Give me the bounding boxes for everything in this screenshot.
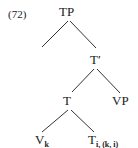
edge-tp-left — [42, 21, 68, 47]
edge-tp-tbar — [70, 21, 96, 48]
node-t-trace-label: T — [88, 132, 96, 147]
edge-t-v — [42, 110, 68, 132]
edge-tbar-vp — [97, 69, 120, 93]
example-number: (72) — [8, 9, 26, 20]
edge-t-ttrace — [71, 110, 94, 132]
node-t-bar: T′ — [90, 53, 101, 66]
edge-tbar-t — [72, 69, 94, 92]
node-t-trace: Ti, (k, i) — [88, 133, 118, 146]
node-t: T — [63, 94, 71, 107]
node-v-k: Vk — [35, 133, 49, 146]
node-t-trace-subscript: i, (k, i) — [96, 140, 118, 148]
node-tp: TP — [59, 5, 74, 18]
tree-edges — [0, 0, 138, 148]
node-vp: VP — [112, 94, 129, 107]
node-v-subscript: k — [44, 140, 48, 148]
node-v-label: V — [35, 132, 44, 147]
